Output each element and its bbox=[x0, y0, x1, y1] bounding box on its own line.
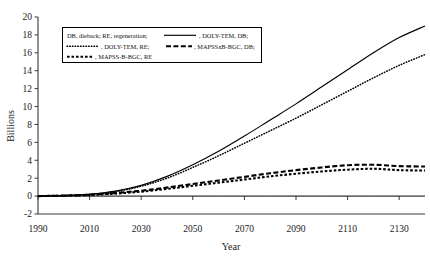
line-chart: 20181614121086420-2 19902010203020502070… bbox=[0, 0, 430, 259]
y-tick-label: 20 bbox=[23, 12, 33, 22]
series-line bbox=[38, 55, 425, 196]
y-axis-tick-labels: 20181614121086420-2 bbox=[23, 12, 33, 219]
y-tick-label: 0 bbox=[27, 191, 32, 201]
y-tick-label: -2 bbox=[24, 209, 32, 219]
x-tick-label: 2010 bbox=[80, 224, 99, 234]
y-tick-label: 10 bbox=[23, 102, 33, 112]
x-tick-label: 2070 bbox=[235, 224, 254, 234]
legend-entry-label: , MAPSSxB-BGC, DB; bbox=[194, 43, 255, 50]
legend-entry-label: , MAPSS-B-BGC, RE bbox=[95, 53, 152, 60]
y-tick-label: 16 bbox=[23, 48, 33, 58]
y-tick-label: 14 bbox=[23, 66, 33, 76]
y-tick-label: 18 bbox=[23, 30, 33, 40]
x-tick-label: 2030 bbox=[132, 224, 151, 234]
y-tick-label: 12 bbox=[23, 84, 33, 94]
x-tick-label: 2130 bbox=[390, 224, 409, 234]
x-axis-ticks bbox=[38, 196, 399, 200]
x-axis-tick-labels: 19902010203020502070209021102130 bbox=[29, 224, 409, 234]
x-tick-label: 1990 bbox=[29, 224, 48, 234]
x-tick-label: 2050 bbox=[183, 224, 202, 234]
chart-legend: DB, dieback; RE, regeneration; , DOLY-TE… bbox=[63, 28, 262, 63]
y-tick-label: 4 bbox=[27, 156, 32, 166]
x-axis-title: Year bbox=[222, 241, 241, 252]
legend-entry-label: , DOLY-TEM, DB; bbox=[199, 32, 248, 39]
legend-note-text: DB, dieback; RE, regeneration; bbox=[67, 32, 148, 39]
legend-entry-label: , DOLY-TEM, RE; bbox=[101, 43, 150, 50]
y-tick-label: 8 bbox=[27, 120, 32, 130]
chart-canvas: 20181614121086420-2 19902010203020502070… bbox=[0, 0, 430, 259]
series-line bbox=[38, 169, 425, 196]
y-tick-label: 6 bbox=[27, 138, 32, 148]
x-tick-label: 2090 bbox=[287, 224, 306, 234]
y-tick-label: 2 bbox=[27, 174, 32, 184]
x-tick-label: 2110 bbox=[338, 224, 357, 234]
y-axis-title: Billions bbox=[5, 110, 16, 142]
